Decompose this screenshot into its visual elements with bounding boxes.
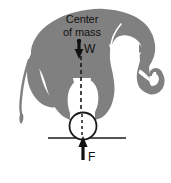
leg-gap-wedge bbox=[73, 78, 91, 116]
center-of-mass-dot bbox=[77, 39, 81, 43]
support-ball bbox=[70, 113, 97, 140]
weight-label: W bbox=[84, 42, 95, 56]
eye-icon bbox=[133, 45, 138, 50]
center-of-mass-label: Center of mass bbox=[49, 13, 115, 38]
normal-force-label: F bbox=[88, 150, 95, 164]
tail-tuft bbox=[19, 114, 23, 124]
physics-diagram: Center of mass W F bbox=[0, 0, 171, 183]
